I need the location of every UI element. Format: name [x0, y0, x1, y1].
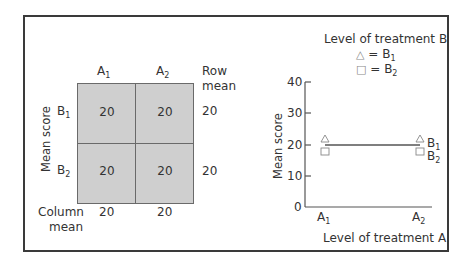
y-tick-label-0: 0 [294, 200, 302, 214]
y-tick-label-10: 10 [287, 169, 302, 183]
triangle-marker-a1 [321, 135, 329, 142]
square-marker-a2 [416, 148, 424, 155]
y-tick-label-40: 40 [287, 75, 302, 89]
x-tick-label-a1: A1 [317, 210, 330, 224]
triangle-marker-a2 [416, 135, 424, 142]
line-plot [0, 0, 473, 270]
plot-x-label: Level of treatment A [323, 231, 446, 245]
y-tick-label-20: 20 [287, 138, 302, 152]
end-label-b2: B2 [427, 149, 440, 163]
y-tick-label-30: 30 [287, 106, 302, 120]
x-tick-label-a2: A2 [412, 210, 425, 224]
square-marker-a1 [321, 148, 329, 155]
plot-y-label: Mean score [271, 111, 285, 181]
end-label-b1: B1 [427, 136, 440, 150]
